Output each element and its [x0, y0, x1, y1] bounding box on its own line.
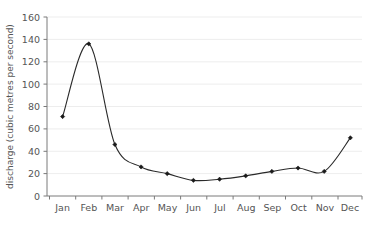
- x-tick-label-oct: Oct: [290, 202, 307, 213]
- data-point-jun: [191, 178, 195, 182]
- x-tick-label-jan: Jan: [54, 202, 70, 213]
- data-point-jul: [217, 177, 221, 181]
- data-point-jan: [61, 114, 65, 118]
- y-tick-label-20: 20: [28, 168, 40, 179]
- y-tick-labels: 160 140 120 100 80 60 40 20 0: [22, 12, 40, 202]
- data-point-sep: [270, 169, 274, 173]
- x-tick-label-jun: Jun: [185, 202, 201, 213]
- x-axis: [47, 196, 362, 200]
- x-tick-label-may: May: [158, 202, 178, 213]
- gridlines: [47, 17, 362, 174]
- y-tick-label-0: 0: [34, 191, 40, 202]
- y-tick-label-160: 160: [22, 12, 40, 23]
- data-point-oct: [296, 166, 300, 170]
- data-point-mar: [113, 142, 117, 146]
- x-tick-label-dec: Dec: [341, 202, 359, 213]
- data-point-aug: [244, 174, 248, 178]
- chart-container: 160 140 120 100 80 60 40 20 0 discharge …: [0, 0, 370, 229]
- data-point-may: [165, 172, 169, 176]
- y-tick-label-120: 120: [22, 56, 40, 67]
- data-point-apr: [139, 165, 143, 169]
- x-tick-label-feb: Feb: [80, 202, 97, 213]
- y-tick-label-40: 40: [28, 146, 40, 157]
- y-tick-label-60: 60: [28, 123, 40, 134]
- y-tick-label-100: 100: [22, 79, 40, 90]
- x-tick-label-sep: Sep: [263, 202, 281, 213]
- x-tick-label-mar: Mar: [106, 202, 124, 213]
- series-line-discharge: [63, 44, 351, 181]
- x-tick-label-nov: Nov: [316, 202, 335, 213]
- x-tick-label-aug: Aug: [237, 202, 256, 213]
- y-tick-label-80: 80: [28, 101, 40, 112]
- y-axis-title: discharge (cubic metres per second): [5, 24, 15, 189]
- y-axis: [44, 17, 48, 196]
- x-tick-label-jul: Jul: [213, 202, 225, 213]
- x-tick-label-apr: Apr: [133, 202, 150, 213]
- y-tick-label-140: 140: [22, 34, 40, 45]
- series-markers-discharge: [61, 42, 353, 183]
- series-discharge: [61, 42, 353, 183]
- line-chart: 160 140 120 100 80 60 40 20 0 discharge …: [0, 0, 370, 229]
- x-tick-labels: Jan Feb Mar Apr May Jun Jul Aug Sep Oct …: [54, 202, 359, 213]
